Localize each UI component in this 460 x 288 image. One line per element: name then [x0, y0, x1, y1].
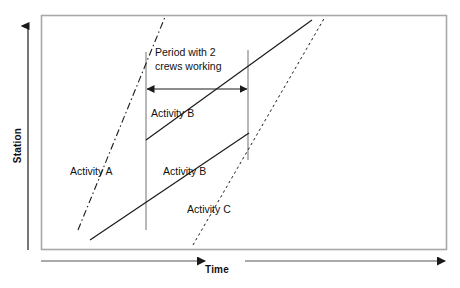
diagram-vector-layer: [0, 0, 460, 288]
diagram-canvas: Station Time Period with 2 crews working…: [0, 0, 460, 288]
x-axis-label: Time: [205, 264, 229, 275]
plot-frame: [42, 16, 447, 250]
activity-c-label: Activity C: [187, 203, 231, 216]
y-axis-label: Station: [12, 116, 23, 176]
period-annotation-line2: crews working: [155, 60, 222, 73]
period-annotation-line1: Period with 2: [155, 46, 216, 59]
activity-b-upper-label: Activity B: [151, 107, 194, 120]
activity-a-label: Activity A: [70, 165, 113, 178]
activity-b-lower-label: Activity B: [163, 165, 206, 178]
